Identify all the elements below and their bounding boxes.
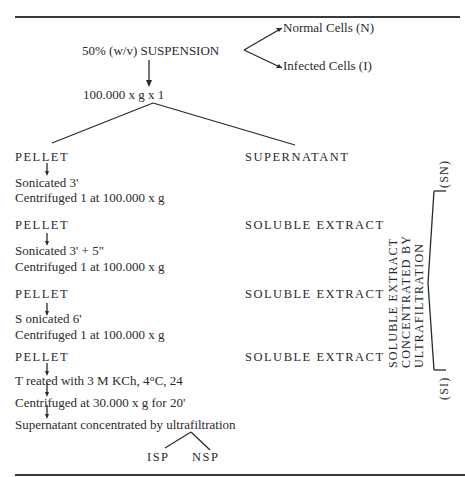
branch-normal-cells: Normal Cells (N): [283, 21, 374, 34]
side-process-line-1: SOLUBLE EXTRACT: [387, 238, 399, 368]
branch-infected-cells: Infected Cells (I): [283, 59, 372, 72]
fractionation-flow-diagram: 50% (w/v) SUSPENSION Normal Cells (N) In…: [0, 0, 465, 477]
step1-treatment-1: Sonicated 3': [15, 176, 78, 189]
product-isp: ISP: [147, 451, 170, 464]
step4-extract: SOLUBLE EXTRACT: [245, 351, 385, 364]
step2-pellet: PELLET: [15, 219, 69, 232]
step3-extract: SOLUBLE EXTRACT: [245, 288, 385, 301]
step3-pellet: PELLET: [15, 288, 69, 301]
step4-treatment-1: T reated with 3 M KCh, 4°C, 24: [15, 374, 183, 387]
product-nsp: NSP: [192, 451, 219, 464]
pellet-label-initial: PELLET: [15, 151, 69, 164]
side-process-line-3: ULTRAFILTRATION: [413, 243, 425, 368]
branch-line-infected: [244, 50, 282, 68]
side-process-line-2: CONCENTRATED BY: [400, 235, 412, 368]
supernatant-label: SUPERNATANT: [245, 151, 349, 164]
step2-treatment-1: Sonicated 3' + 5": [15, 244, 104, 257]
step4-pellet: PELLET: [15, 351, 69, 364]
branch-line-normal: [244, 28, 282, 50]
output-si: (SI): [438, 377, 450, 400]
output-sn: (SN): [438, 160, 450, 188]
step2-extract: SOLUBLE EXTRACT: [245, 219, 385, 232]
step4-treatment-3: Supernatant concentrated by ultrafiltrat…: [15, 418, 236, 431]
step2-treatment-2: Centrifuged 1 at 100.000 x g: [15, 260, 164, 273]
step1-treatment-2: Centrifuged 1 at 100.000 x g: [15, 191, 164, 204]
step4-treatment-2: Centrifuged at 30.000 x g for 20': [15, 396, 185, 409]
step3-treatment-2: Centrifuged 1 at 100.000 x g: [15, 328, 164, 341]
step3-treatment-1: S onicated 6': [15, 312, 82, 325]
suspension-label: 50% (w/v) SUSPENSION: [82, 44, 219, 57]
first-centrifugation: 100.000 x g x 1: [83, 88, 164, 101]
